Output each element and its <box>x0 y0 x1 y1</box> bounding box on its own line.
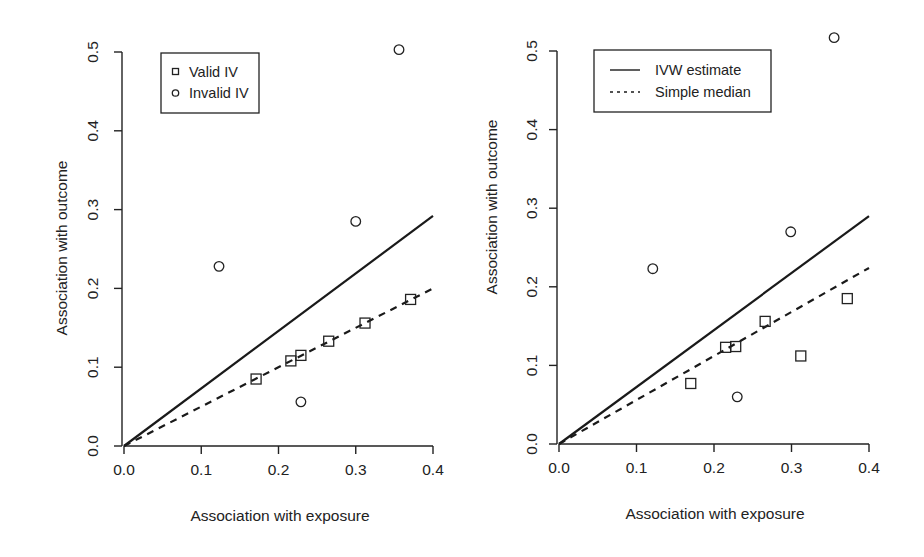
left-x-axis-title: Association with exposure <box>190 507 369 524</box>
y-tick-label: 0.3 <box>84 199 101 221</box>
legend-label-ivw-estimate: IVW estimate <box>655 62 741 78</box>
invalid-iv-point <box>732 392 742 402</box>
right-legend: IVW estimate Simple median <box>594 50 771 112</box>
x-tick-label: 0.0 <box>548 459 570 476</box>
x-tick-label: 0.2 <box>268 461 290 478</box>
invalid-iv-point <box>214 262 224 272</box>
x-tick-label: 0.4 <box>422 461 444 478</box>
left-legend-box <box>161 53 259 113</box>
chart-canvas: 0.00.10.20.30.40.00.10.20.30.40.5 Associ… <box>0 0 924 557</box>
valid-iv-point <box>360 318 370 328</box>
y-tick-label: 0.1 <box>523 355 540 377</box>
invalid-iv-point <box>296 397 306 407</box>
ivw-estimate-line <box>124 216 433 446</box>
valid-iv-point <box>796 351 806 361</box>
legend-label-simple-median: Simple median <box>655 84 751 100</box>
invalid-iv-point <box>351 217 361 227</box>
y-tick-label: 0.2 <box>84 278 101 300</box>
left-legend: Valid IV Invalid IV <box>161 53 259 113</box>
x-tick-label: 0.1 <box>190 461 212 478</box>
right-legend-box <box>594 50 771 112</box>
left-panel: 0.00.10.20.30.40.00.10.20.30.40.5 Associ… <box>53 41 444 524</box>
invalid-iv-point <box>829 33 839 43</box>
x-tick-label: 0.3 <box>345 461 367 478</box>
x-tick-label: 0.3 <box>781 459 803 476</box>
y-tick-label: 0.1 <box>84 356 101 378</box>
valid-iv-point <box>406 294 416 304</box>
valid-iv-point <box>842 294 852 304</box>
y-tick-label: 0.0 <box>523 433 540 455</box>
y-tick-label: 0.2 <box>523 276 540 298</box>
y-tick-label: 0.0 <box>84 435 101 457</box>
x-tick-label: 0.4 <box>858 459 880 476</box>
x-tick-label: 0.2 <box>703 459 725 476</box>
y-tick-label: 0.5 <box>523 40 540 62</box>
y-tick-label: 0.4 <box>523 118 540 140</box>
valid-iv-point <box>686 378 696 388</box>
valid-iv-point <box>760 316 770 326</box>
x-tick-label: 0.0 <box>113 461 135 478</box>
right-panel: 0.00.10.20.30.40.00.10.20.30.40.5 Associ… <box>483 33 880 522</box>
right-y-axis-title: Association with outcome <box>483 120 500 295</box>
valid-iv-point <box>324 336 334 346</box>
y-tick-label: 0.3 <box>523 197 540 219</box>
invalid-iv-point <box>786 227 796 237</box>
invalid-iv-point <box>648 264 658 274</box>
left-y-axis-title: Association with outcome <box>53 161 70 336</box>
right-fit-lines <box>559 216 869 444</box>
figure: 0.00.10.20.30.40.00.10.20.30.40.5 Associ… <box>0 0 924 557</box>
legend-label-invalid-iv: Invalid IV <box>189 85 249 101</box>
left-axes: 0.00.10.20.30.40.00.10.20.30.40.5 <box>84 41 444 478</box>
simple-median-line <box>559 268 869 444</box>
y-tick-label: 0.4 <box>84 120 101 142</box>
x-tick-label: 0.1 <box>626 459 648 476</box>
simple-median-line <box>124 288 433 446</box>
right-x-axis-title: Association with exposure <box>625 505 804 522</box>
ivw-estimate-line <box>559 216 869 444</box>
left-fit-lines <box>124 216 433 446</box>
invalid-iv-point <box>394 45 404 55</box>
y-tick-label: 0.5 <box>84 41 101 63</box>
legend-label-valid-iv: Valid IV <box>189 64 238 80</box>
